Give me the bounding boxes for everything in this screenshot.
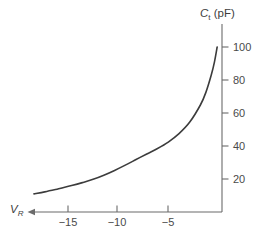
x-tick-label-minus10: −10	[108, 216, 127, 228]
y-axis-title: Ct (pF)	[200, 7, 235, 22]
capacitance-curve	[34, 47, 217, 194]
y-tick-label-100: 100	[233, 41, 251, 53]
varactor-capacitance-figure: 100 80 60 40 20 −15 −10 −5 Ct (pF) VR	[0, 0, 256, 242]
y-tick-label-40: 40	[233, 140, 245, 152]
x-tick-label-minus15: −15	[59, 216, 78, 228]
y-tick-label-60: 60	[233, 107, 245, 119]
y-tick-label-20: 20	[233, 173, 245, 185]
x-axis-title: VR	[10, 203, 24, 218]
y-axis-title-units-text: (pF)	[214, 7, 235, 19]
y-tick-label-80: 80	[233, 74, 245, 86]
x-axis-title-subscript: R	[18, 209, 24, 218]
plot-canvas: 100 80 60 40 20 −15 −10 −5 Ct (pF) VR	[0, 0, 256, 242]
x-axis-arrow-icon	[28, 209, 36, 215]
x-tick-label-minus5: −5	[162, 216, 175, 228]
